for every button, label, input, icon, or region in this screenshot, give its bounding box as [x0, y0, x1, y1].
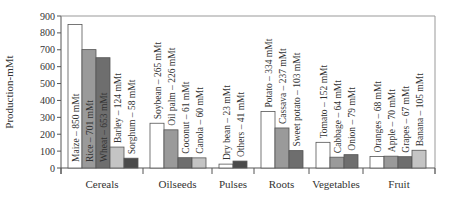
bar-sorghum — [124, 158, 138, 168]
group-roots: Potato – 334 mMtCassava – 237 mMtSweet p… — [261, 38, 303, 168]
group-fruit: Oranges – 68 mMtApple – 70 mMtGrapes – 6… — [370, 73, 426, 168]
bar-data-label: Banana – 105 mMt — [415, 73, 425, 146]
y-tick-label: 500 — [40, 78, 55, 89]
category-label: Oilseeds — [159, 178, 197, 190]
bar-data-label: Canola – 60 mMt — [195, 87, 205, 154]
bar-data-label: Oil palm – 226 mMt — [167, 47, 177, 125]
bar-apple — [384, 156, 398, 168]
bar-data-label: Coconut – 61 mMt — [181, 81, 191, 153]
bar-data-label: Sorghum – 58 mMt — [127, 79, 137, 154]
y-tick-label: 300 — [40, 112, 55, 123]
bar-data-label: Rice – 701 mMt — [85, 100, 95, 162]
bar-onion — [344, 155, 358, 168]
category-label: Roots — [269, 178, 295, 190]
y-axis-label: Production-mMt — [3, 55, 15, 128]
bar-sweet-potato — [289, 151, 303, 168]
y-tick-label: 400 — [40, 95, 55, 106]
bar-data-label: Dry bean – 23 mMt — [222, 85, 232, 160]
group-cereals: Maize – 850 mMtRice – 701 mMtWheat – 653… — [68, 24, 138, 168]
category-label: Vegetables — [312, 178, 360, 190]
bar-banana — [412, 150, 426, 168]
y-tick-label: 700 — [40, 44, 55, 55]
y-tick-label: 100 — [40, 146, 55, 157]
bar-data-label: Maize – 850 mMt — [71, 93, 81, 162]
x-axis: CerealsOilseedsPulsesRootsVegetablesFrui… — [61, 168, 435, 190]
bars: Maize – 850 mMtRice – 701 mMtWheat – 653… — [68, 24, 426, 168]
bar-data-label: Others – 41 mMt — [236, 92, 246, 158]
y-tick-label: 900 — [40, 11, 55, 22]
bar-data-label: Tomato – 152 mMt — [319, 64, 329, 138]
bar-data-label: Oranges – 68 mMt — [373, 81, 383, 153]
bar-data-label: Cassava – 237 mMt — [278, 48, 288, 124]
category-label: Pulses — [219, 178, 247, 190]
y-axis: 0100200300400500600700800900 — [40, 11, 61, 174]
bar-cabbage — [330, 157, 344, 168]
category-label: Cereals — [86, 178, 119, 190]
bar-data-label: Barley – 124 mMt — [113, 73, 123, 143]
bar-data-label: Apple – 70 mMt — [387, 89, 397, 152]
bar-data-label: Grapes – 67 mMt — [401, 86, 411, 153]
group-pulses: Dry bean – 23 mMtOthers – 41 mMt — [219, 85, 247, 168]
bar-chart: 0100200300400500600700800900 Maize – 850… — [0, 0, 450, 198]
bar-oil-palm — [164, 130, 178, 168]
group-vegetables: Tomato – 152 mMtCabbage – 64 mMtOnion – … — [316, 64, 358, 168]
bar-tomato — [316, 142, 330, 168]
bar-data-label: Soybean – 265 mMt — [153, 42, 163, 120]
bar-data-label: Cabbage – 64 mMt — [333, 80, 343, 153]
bar-soybean — [150, 123, 164, 168]
y-tick-label: 600 — [40, 61, 55, 72]
y-tick-label: 200 — [40, 129, 55, 140]
bar-data-label: Potato – 334 mMt — [264, 38, 274, 107]
bar-others — [233, 161, 247, 168]
bar-barley — [110, 147, 124, 168]
bar-canola — [192, 158, 206, 168]
bar-potato — [261, 112, 275, 168]
bar-data-label: Onion – 79 mMt — [347, 87, 357, 151]
bar-dry-bean — [219, 164, 233, 168]
bar-data-label: Sweet potato – 103 mMt — [292, 52, 302, 146]
bar-cassava — [275, 128, 289, 168]
y-tick-label: 800 — [40, 27, 55, 38]
group-oilseeds: Soybean – 265 mMtOil palm – 226 mMtCocon… — [150, 42, 206, 168]
bar-coconut — [178, 158, 192, 168]
category-label: Fruit — [388, 178, 409, 190]
y-tick-label: 0 — [50, 163, 55, 174]
bar-data-label: Wheat – 653 mMt — [99, 92, 109, 162]
bar-oranges — [370, 157, 384, 168]
bar-grapes — [398, 157, 412, 168]
